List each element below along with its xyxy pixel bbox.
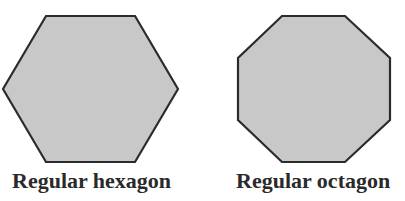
regular-hexagon-shape xyxy=(3,16,178,162)
octagon-label: Regular octagon xyxy=(236,168,390,194)
hexagon-label: Regular hexagon xyxy=(12,168,171,194)
regular-octagon-shape xyxy=(238,16,390,162)
